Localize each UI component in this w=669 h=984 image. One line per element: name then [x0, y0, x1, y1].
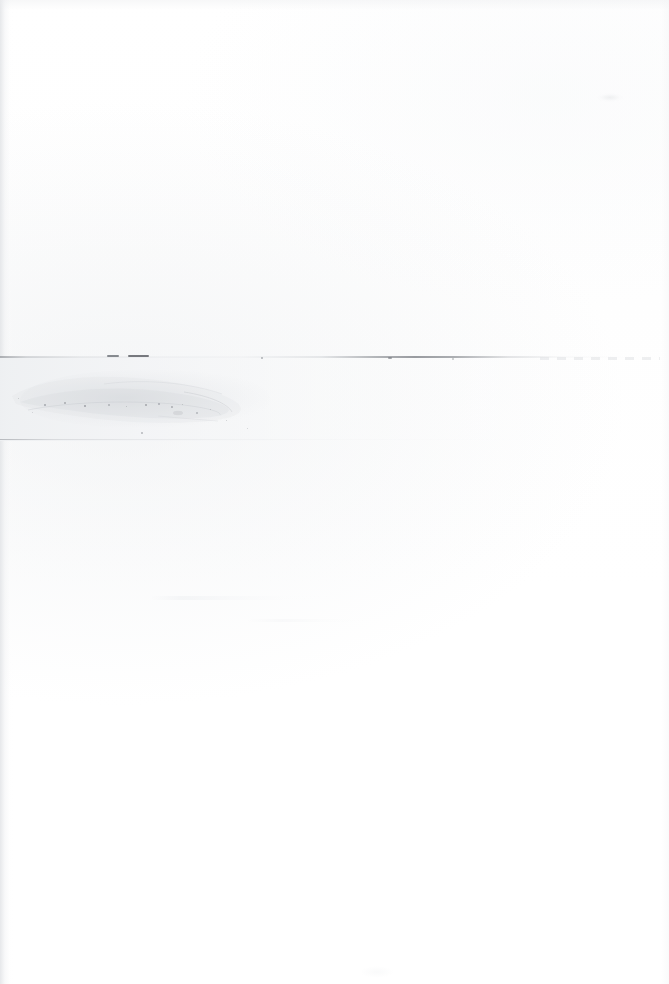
- dust-speck: [64, 402, 66, 404]
- lower-scan-line: [0, 439, 669, 440]
- dust-speck: [171, 406, 173, 408]
- dust-speck: [247, 428, 248, 429]
- upper-scan-line: [0, 356, 669, 358]
- dust-speck: [84, 405, 86, 407]
- page-edge-shadow-left: [0, 0, 14, 984]
- page-edge-shadow-top: [0, 0, 669, 10]
- dust-speck: [108, 404, 110, 406]
- dust-speck: [226, 420, 227, 421]
- bottom-center-ghost: [360, 966, 394, 978]
- mid-grey-band: [0, 357, 669, 441]
- dust-speck: [158, 403, 160, 405]
- dust-speck: [182, 404, 183, 405]
- dust-speck: [196, 412, 198, 414]
- top-right-smudge: [597, 93, 623, 102]
- dust-speck: [44, 404, 46, 406]
- scan-artifact-layer: [0, 0, 669, 984]
- main-blotch: [8, 366, 298, 432]
- page-edge-shadow-right: [661, 0, 669, 984]
- main-blotch-halo: [20, 370, 270, 428]
- dust-speck: [452, 358, 454, 360]
- ghost-streak-upper: [150, 596, 330, 600]
- dust-speck: [145, 404, 147, 406]
- rule-dash-c: [388, 357, 392, 359]
- dust-speck: [261, 357, 263, 359]
- scanned-page: Blank scanned document page, white paper…: [0, 0, 669, 984]
- faint-dashed-marks: [540, 357, 660, 360]
- dust-speck: [32, 412, 33, 413]
- ghost-streak-lower: [246, 619, 366, 622]
- rule-dash-b: [128, 355, 149, 357]
- rule-dash-a: [107, 355, 119, 357]
- dust-speck: [18, 398, 19, 399]
- dust-speck: [210, 409, 211, 410]
- dust-speck: [141, 432, 143, 434]
- dust-speck: [126, 406, 127, 407]
